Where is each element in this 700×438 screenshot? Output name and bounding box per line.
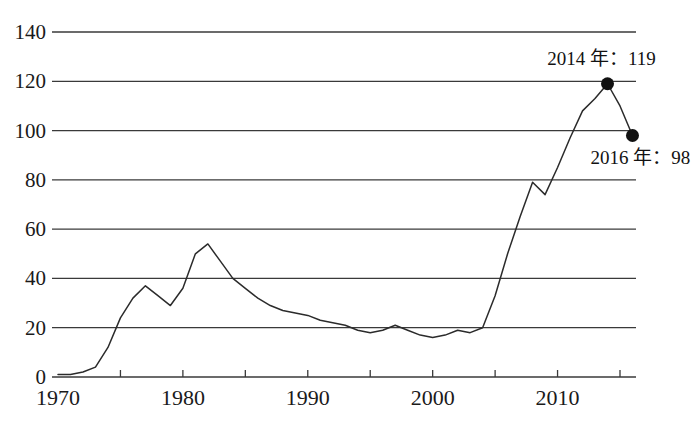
- data-point-marker-end-2016: [626, 129, 639, 142]
- x-tick-label-2000: 2000: [411, 385, 455, 410]
- x-axis-tick-marks: [120, 370, 620, 377]
- y-tick-label-80: 80: [25, 168, 46, 192]
- y-tick-label-120: 120: [15, 69, 47, 93]
- y-tick-label-40: 40: [25, 266, 46, 290]
- annotation-labels: 2014 年：1192016 年：98: [547, 48, 690, 168]
- chart-canvas: 020406080100120140 19701980199020002010 …: [0, 0, 700, 438]
- x-tick-label-1970: 1970: [36, 385, 80, 410]
- x-axis-tick-labels: 19701980199020002010: [36, 385, 580, 410]
- annotation-end-2016: 2016 年：98: [591, 147, 691, 168]
- y-tick-label-100: 100: [15, 119, 47, 143]
- y-tick-label-60: 60: [25, 217, 46, 241]
- x-tick-label-1980: 1980: [161, 385, 205, 410]
- annotation-markers: [601, 77, 639, 142]
- y-tick-label-20: 20: [25, 316, 46, 340]
- x-tick-label-1990: 1990: [286, 385, 330, 410]
- data-point-marker-peak-2014: [601, 77, 614, 90]
- x-tick-label-2010: 2010: [536, 385, 580, 410]
- line-chart: 020406080100120140 19701980199020002010 …: [0, 0, 700, 438]
- y-tick-label-140: 140: [15, 20, 47, 44]
- y-axis-tick-labels: 020406080100120140: [15, 20, 47, 389]
- annotation-peak-2014: 2014 年：119: [547, 48, 656, 69]
